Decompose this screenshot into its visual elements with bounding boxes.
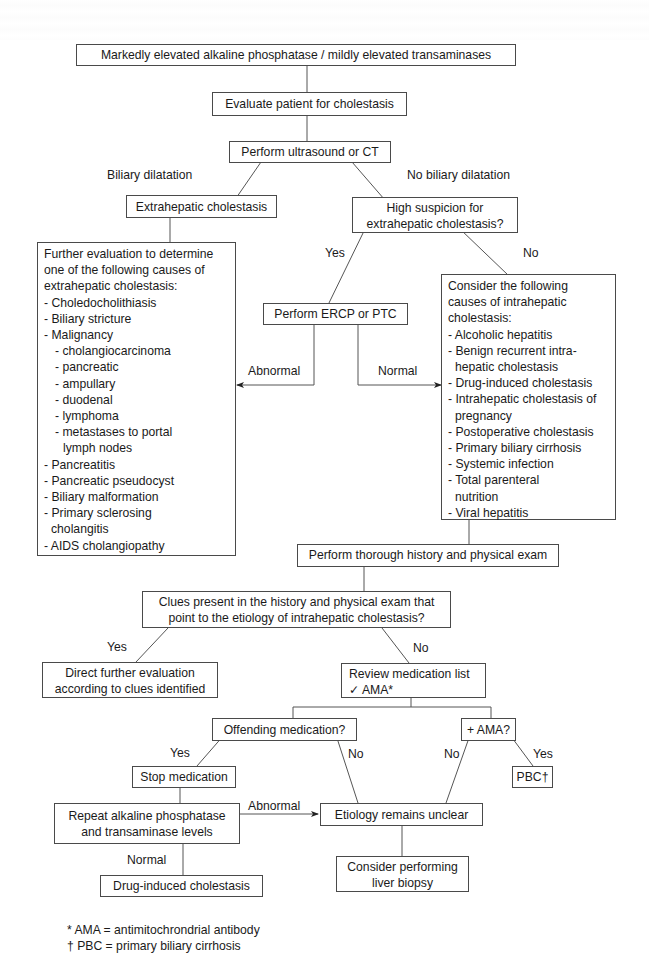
node-evaluate: Evaluate patient for cholestasis <box>212 92 407 116</box>
edge-label-suspicion-no: No <box>523 246 539 260</box>
node-extrahepatic-label: Extrahepatic cholestasis <box>127 199 276 215</box>
edge-label-repeat-normal: Normal <box>127 853 166 867</box>
node-pbc: PBC† <box>512 766 553 788</box>
intrahepatic-intro-2: causes of intrahepatic <box>448 294 609 310</box>
node-imaging-label: Perform ultrasound or CT <box>230 144 390 160</box>
node-drug-induced-label: Drug-induced cholestasis <box>101 878 262 894</box>
list-subitem: - pancreatic <box>44 359 229 375</box>
node-etiology-unclear: Etiology remains unclear <box>320 803 483 826</box>
node-plus-ama-label: + AMA? <box>462 722 515 738</box>
footnote-pbc: † PBC = primary biliary cirrhosis <box>67 939 241 954</box>
list-item: - Primary sclerosing <box>44 505 229 521</box>
node-liver-biopsy: Consider performing liver biopsy <box>336 856 469 892</box>
list-item: - Total parenteral <box>448 472 609 488</box>
node-offending-medication-label: Offending medication? <box>213 722 356 738</box>
edge-label-biliary-dilatation: Biliary dilatation <box>107 168 192 182</box>
extrahepatic-intro-2: one of the following causes of <box>44 262 229 278</box>
edge-label-ama-no: No <box>444 747 460 761</box>
edge-label-offending-yes: Yes <box>170 746 190 760</box>
node-liver-biopsy-line1: Consider performing <box>337 859 468 875</box>
node-ercp: Perform ERCP or PTC <box>263 303 408 325</box>
node-stop-medication: Stop medication <box>132 766 236 788</box>
list-item: - Alcoholic hepatitis <box>448 327 609 343</box>
node-repeat-labs: Repeat alkaline phosphatase and transami… <box>54 803 240 844</box>
node-plus-ama: + AMA? <box>461 718 516 741</box>
footnote-ama: * AMA = antimitochrondrial antibody <box>67 923 260 938</box>
list-item-continued: nutrition <box>448 489 609 505</box>
list-subitem: - duodenal <box>44 392 229 408</box>
node-direct-evaluation-line2: according to clues identified <box>43 681 217 697</box>
edge-label-ercp-normal: Normal <box>378 364 417 378</box>
edge-label-offending-no: No <box>348 747 364 761</box>
node-high-suspicion-line1: High suspicion for <box>353 200 517 216</box>
list-item: - Primary biliary cirrhosis <box>448 440 609 456</box>
extrahepatic-intro-1: Further evaluation to determine <box>44 246 229 262</box>
list-item: - Choledocholithiasis <box>44 295 229 311</box>
node-direct-evaluation: Direct further evaluation according to c… <box>42 662 218 698</box>
node-intrahepatic-causes: Consider the following causes of intrahe… <box>441 274 616 520</box>
node-repeat-labs-line1: Repeat alkaline phosphatase <box>55 808 239 824</box>
list-subitem: - metastases to portal <box>44 424 229 440</box>
node-etiology-unclear-label: Etiology remains unclear <box>321 807 482 823</box>
intrahepatic-intro-1: Consider the following <box>448 278 609 294</box>
edge-label-clues-no: No <box>413 641 429 655</box>
list-item: - Intrahepatic cholestasis of <box>448 391 609 407</box>
list-subitem: - lymphoma <box>44 408 229 424</box>
list-item: - Malignancy <box>44 327 229 343</box>
list-item: - Drug-induced cholestasis <box>448 375 609 391</box>
list-subitem: - cholangiocarcinoma <box>44 343 229 359</box>
node-clues-line2: point to the etiology of intrahepatic ch… <box>143 610 450 626</box>
node-direct-evaluation-line1: Direct further evaluation <box>43 665 217 681</box>
node-clues: Clues present in the history and physica… <box>142 591 451 628</box>
list-item: - Pancreatic pseudocyst <box>44 473 229 489</box>
list-item: - Viral hepatitis <box>448 505 609 521</box>
edge-label-ama-yes: Yes <box>533 747 553 761</box>
list-item: - Pancreatitis <box>44 457 229 473</box>
node-evaluate-label: Evaluate patient for cholestasis <box>213 96 406 112</box>
list-item: - Benign recurrent intra- <box>448 343 609 359</box>
list-item-continued: hepatic cholestasis <box>448 359 609 375</box>
node-stop-medication-label: Stop medication <box>133 769 235 785</box>
node-history-exam: Perform thorough history and physical ex… <box>297 544 559 567</box>
edge-label-no-biliary-dilatation: No biliary dilatation <box>407 168 510 182</box>
node-high-suspicion-line2: extrahepatic cholestasis? <box>353 216 517 232</box>
list-item: - Biliary malformation <box>44 489 229 505</box>
node-pbc-label: PBC† <box>513 769 552 785</box>
node-start: Markedly elevated alkaline phosphatase /… <box>76 44 516 66</box>
node-drug-induced: Drug-induced cholestasis <box>100 875 263 897</box>
node-review-medications: Review medication list ✓ AMA* <box>341 663 486 698</box>
node-review-medications-line1: Review medication list <box>349 666 485 682</box>
list-item-continued: pregnancy <box>448 408 609 424</box>
extrahepatic-intro-3: extrahepatic cholestasis: <box>44 278 229 294</box>
list-item: - Postoperative cholestasis <box>448 424 609 440</box>
node-review-medications-line2: ✓ AMA* <box>349 682 485 698</box>
edge-label-ercp-abnormal: Abnormal <box>248 364 300 378</box>
list-item: - Systemic infection <box>448 456 609 472</box>
node-offending-medication: Offending medication? <box>212 718 357 741</box>
node-extrahepatic-causes: Further evaluation to determine one of t… <box>37 242 236 556</box>
list-item-continued: cholangitis <box>44 521 229 537</box>
node-start-label: Markedly elevated alkaline phosphatase /… <box>77 47 515 63</box>
node-extrahepatic: Extrahepatic cholestasis <box>126 195 277 218</box>
node-high-suspicion: High suspicion for extrahepatic cholesta… <box>352 197 518 233</box>
node-liver-biopsy-line2: liver biopsy <box>337 875 468 891</box>
node-ercp-label: Perform ERCP or PTC <box>264 306 407 322</box>
node-imaging: Perform ultrasound or CT <box>229 141 391 163</box>
edge-label-clues-yes: Yes <box>107 640 127 654</box>
edge-label-repeat-abnormal: Abnormal <box>248 799 300 813</box>
list-subitem-continued: lymph nodes <box>44 440 229 456</box>
node-repeat-labs-line2: and transaminase levels <box>55 824 239 840</box>
list-item: - AIDS cholangiopathy <box>44 538 229 554</box>
intrahepatic-intro-3: cholestasis: <box>448 310 609 326</box>
edge-label-suspicion-yes: Yes <box>325 246 345 260</box>
list-subitem: - ampullary <box>44 376 229 392</box>
list-item: - Biliary stricture <box>44 311 229 327</box>
node-history-exam-label: Perform thorough history and physical ex… <box>298 547 558 563</box>
node-clues-line1: Clues present in the history and physica… <box>143 594 450 610</box>
